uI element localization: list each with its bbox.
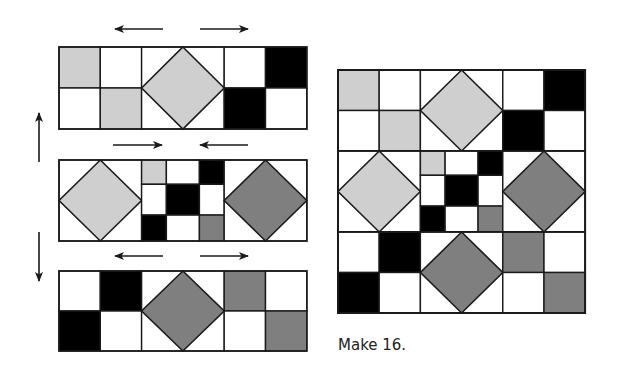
patch-white — [544, 111, 585, 152]
nine-patch-black — [478, 151, 503, 175]
make-count-caption: Make 16. — [338, 336, 406, 354]
patch-white — [379, 70, 420, 111]
bottom-row — [59, 271, 307, 351]
nine-patch-white — [445, 206, 478, 232]
nine-patch-white — [142, 184, 167, 215]
patch-white — [59, 271, 100, 311]
nine-patch-black — [420, 206, 445, 232]
finished-block — [338, 70, 585, 313]
top-row — [59, 47, 307, 129]
nine-patch-light — [142, 160, 167, 184]
patch-white — [503, 273, 544, 314]
patch-white — [503, 70, 544, 111]
patch-black — [544, 70, 585, 111]
patch-light — [379, 111, 420, 152]
patch-white — [100, 311, 141, 351]
patch-black — [503, 111, 544, 152]
patch-black — [59, 311, 100, 351]
nine-patch-white — [199, 184, 224, 215]
nine-patch-dark — [199, 215, 224, 241]
patch-black — [100, 271, 141, 311]
nine-patch-white — [166, 160, 199, 184]
patch-white — [100, 47, 141, 88]
patch-white — [224, 311, 265, 351]
patch-black — [224, 88, 265, 129]
patch-white — [224, 47, 265, 88]
patch-white — [338, 111, 379, 152]
patch-white — [266, 88, 307, 129]
patch-light — [59, 47, 100, 88]
nine-patch-white — [420, 175, 445, 206]
patch-white — [379, 273, 420, 314]
row-strips — [59, 47, 307, 351]
patch-dark — [266, 311, 307, 351]
bottom-row — [338, 232, 585, 313]
nine-patch-black — [142, 215, 167, 241]
middle-row — [338, 151, 585, 232]
patch-dark — [544, 273, 585, 314]
nine-patch-white — [166, 215, 199, 241]
patch-light — [100, 88, 141, 129]
nine-patch-black — [166, 184, 199, 215]
patch-black — [379, 232, 420, 273]
nine-patch-white — [445, 151, 478, 175]
nine-patch-black — [199, 160, 224, 184]
patch-white — [338, 232, 379, 273]
nine-patch-black — [445, 175, 478, 206]
patch-black — [338, 273, 379, 314]
patch-white — [544, 232, 585, 273]
middle-row — [59, 160, 307, 241]
patch-light — [338, 70, 379, 111]
patch-white — [59, 88, 100, 129]
patch-dark — [224, 271, 265, 311]
nine-patch-dark — [478, 206, 503, 232]
quilt-assembly-diagram — [0, 0, 619, 371]
patch-dark — [503, 232, 544, 273]
patch-black — [266, 47, 307, 88]
patch-white — [266, 271, 307, 311]
nine-patch-white — [478, 175, 503, 206]
nine-patch-light — [420, 151, 445, 175]
top-row — [338, 70, 585, 151]
